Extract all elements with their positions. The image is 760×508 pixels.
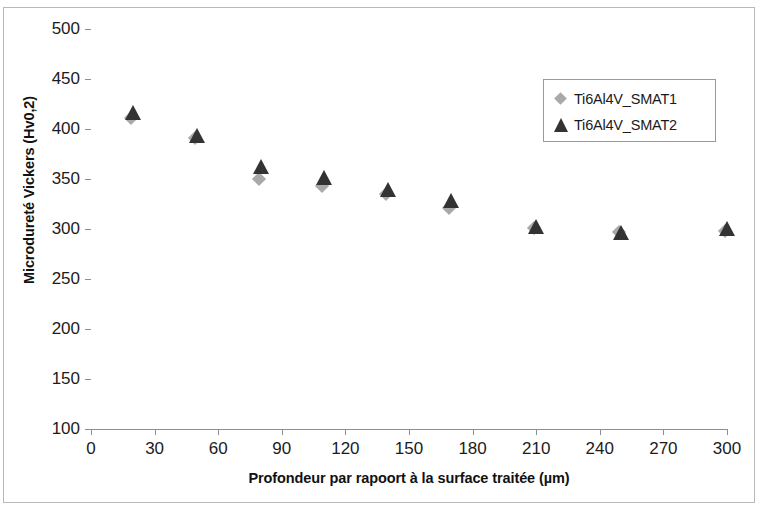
y-axis-title: Microdureté Vickers (Hv0,2) [21, 75, 37, 305]
legend-label-series-2: Ti6Al4V_SMAT2 [574, 117, 677, 133]
legend-item-series-1: Ti6Al4V_SMAT1 [552, 86, 715, 112]
triangle-icon [552, 115, 574, 135]
x-axis-tick [473, 429, 474, 435]
x-axis-tick [345, 429, 346, 435]
y-tick-label: 250 [34, 270, 80, 287]
x-tick-label: 60 [188, 440, 248, 458]
x-axis-title: Profondeur par rapoort à la surface trai… [91, 470, 727, 486]
x-tick-label: 240 [570, 440, 630, 458]
legend-item-series-2: Ti6Al4V_SMAT2 [552, 112, 715, 138]
x-axis-tick [91, 429, 92, 435]
x-tick-label: 210 [506, 440, 566, 458]
y-tick-label: 100 [34, 420, 80, 437]
x-tick-label: 120 [315, 440, 375, 458]
y-tick-label: 500 [34, 20, 80, 37]
x-tick-label: 150 [379, 440, 439, 458]
y-tick-label: 350 [34, 170, 80, 187]
y-tick-label: 200 [34, 320, 80, 337]
x-axis-tick [282, 429, 283, 435]
x-tick-label: 90 [252, 440, 312, 458]
y-tick-label: 150 [34, 370, 80, 387]
x-axis-tick [600, 429, 601, 435]
x-axis-tick [409, 429, 410, 435]
y-tick-label: 300 [34, 220, 80, 237]
x-axis-tick [155, 429, 156, 435]
chart-figure: 100150200250300350400450500 030609012015… [0, 0, 760, 508]
x-axis-tick [663, 429, 664, 435]
x-tick-label: 270 [633, 440, 693, 458]
x-tick-label: 0 [61, 440, 121, 458]
x-axis-tick [536, 429, 537, 435]
legend: Ti6Al4V_SMAT1 Ti6Al4V_SMAT2 [543, 79, 716, 142]
x-axis-tick [218, 429, 219, 435]
y-tick-label: 400 [34, 120, 80, 137]
y-tick-label: 450 [34, 70, 80, 87]
x-tick-label: 300 [697, 440, 757, 458]
legend-label-series-1: Ti6Al4V_SMAT1 [574, 91, 677, 107]
x-tick-label: 30 [125, 440, 185, 458]
x-axis-tick [727, 429, 728, 435]
diamond-icon [552, 89, 574, 109]
x-tick-label: 180 [443, 440, 503, 458]
